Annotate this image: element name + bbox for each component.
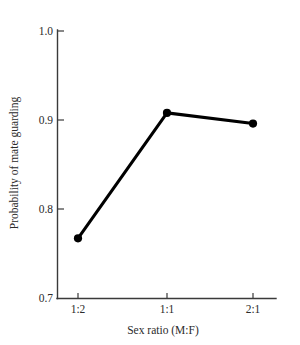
y-tick-label-1.0: 1.0 — [39, 25, 54, 37]
y-tick-label-0.9: 0.9 — [39, 114, 54, 126]
x-tick-label-1-2: 1:2 — [71, 303, 86, 315]
line-chart: 1.0 0.9 0.8 0.7 1:2 1:1 2:1 Sex ratio (M… — [0, 0, 300, 345]
y-axis-title: Probability of mate guarding — [8, 96, 21, 229]
x-tick-label-1-1: 1:1 — [160, 303, 175, 315]
series-line-probability — [78, 113, 253, 238]
y-tick-label-0.7: 0.7 — [39, 292, 54, 304]
x-tick-label-2-1: 2:1 — [246, 303, 261, 315]
y-tick-label-0.8: 0.8 — [39, 203, 54, 215]
chart-figure: 1.0 0.9 0.8 0.7 1:2 1:1 2:1 Sex ratio (M… — [0, 0, 300, 345]
data-point-1:2 — [74, 234, 82, 242]
x-axis-title: Sex ratio (M:F) — [127, 324, 199, 337]
data-point-1:1 — [163, 109, 171, 117]
data-point-2:1 — [249, 119, 257, 127]
series-markers — [74, 109, 257, 243]
